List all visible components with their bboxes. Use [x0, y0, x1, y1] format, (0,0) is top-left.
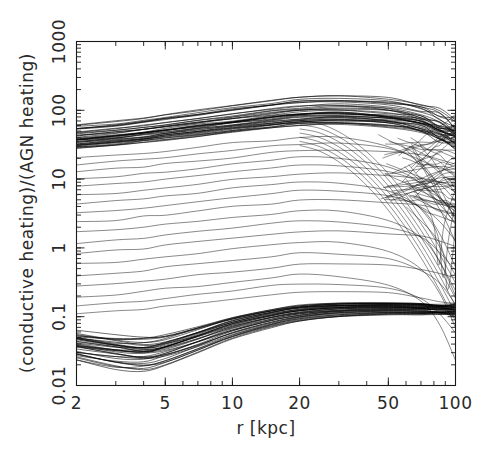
x-axis-title: r [kpc] — [236, 418, 295, 438]
chart-background — [0, 0, 496, 455]
y-tick-label: 0.1 — [49, 302, 69, 331]
x-tick-label: 10 — [221, 393, 244, 413]
log-log-line-chart: 25102050100 0.010.11101001000 r [kpc] (c… — [0, 0, 496, 455]
x-tick-label: 2 — [71, 393, 82, 413]
y-tick-label: 0.01 — [49, 366, 69, 406]
y-tick-label: 1 — [49, 242, 69, 253]
x-tick-label: 20 — [288, 393, 311, 413]
x-tick-label: 50 — [377, 393, 400, 413]
y-tick-label: 1000 — [49, 19, 69, 64]
y-axis-title: (conductive heating)/(AGN heating) — [17, 53, 37, 373]
x-tick-label: 100 — [439, 393, 473, 413]
figure-panel: 25102050100 0.010.11101001000 r [kpc] (c… — [0, 0, 496, 455]
x-tick-label: 5 — [160, 393, 171, 413]
y-tick-label: 10 — [49, 168, 69, 191]
y-tick-label: 100 — [49, 93, 69, 127]
